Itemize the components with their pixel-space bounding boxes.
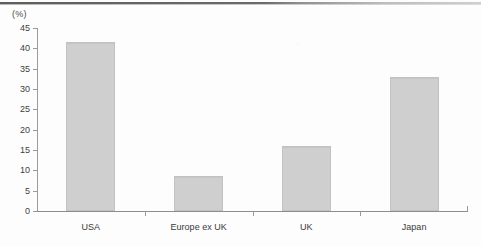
y-axis-tick-label: 45 (20, 23, 30, 33)
y-axis-tick-label: 40 (20, 43, 30, 53)
y-axis-tick-label: 5 (25, 186, 30, 196)
bar (174, 176, 223, 211)
category-divider-tick (253, 211, 254, 216)
bar-chart: (%) 454035302520151050 USAEurope ex UKUK… (0, 0, 481, 246)
bar (390, 77, 439, 211)
y-axis-unit-label: (%) (12, 9, 27, 19)
category-divider-tick (145, 211, 146, 216)
x-axis-category-label: Japan (402, 222, 427, 232)
y-axis-tick (33, 28, 37, 29)
y-axis-tick-label: 15 (20, 145, 30, 155)
bar (66, 42, 115, 211)
x-axis-category-label: UK (300, 222, 313, 232)
x-axis-end-tick (467, 206, 468, 212)
y-axis-tick (33, 191, 37, 192)
y-axis-line (37, 28, 38, 211)
y-axis-tick (33, 89, 37, 90)
y-axis-tick-label: 35 (20, 64, 30, 74)
bar (282, 146, 331, 211)
x-axis-category-label: USA (82, 222, 101, 232)
y-axis-tick (33, 211, 37, 212)
category-divider-tick (360, 211, 361, 216)
x-axis-category-label: Europe ex UK (171, 222, 227, 232)
y-axis-tick-label: 25 (20, 104, 30, 114)
y-axis-tick (33, 150, 37, 151)
y-axis-tick (33, 170, 37, 171)
y-axis-tick-label: 20 (20, 125, 30, 135)
y-axis-tick-label: 0 (25, 206, 30, 216)
y-axis-tick (33, 130, 37, 131)
scan-artifact-band-secondary (0, 4, 481, 5)
y-axis-tick (33, 109, 37, 110)
plot-area: 454035302520151050 (37, 28, 468, 211)
y-axis-tick-label: 10 (20, 165, 30, 175)
y-axis-tick (33, 48, 37, 49)
y-axis-tick (33, 69, 37, 70)
y-axis-tick-label: 30 (20, 84, 30, 94)
